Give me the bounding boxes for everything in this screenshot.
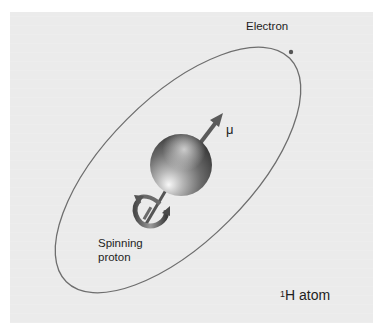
- spinning-proton-line1: Spinning: [98, 236, 158, 250]
- hydrogen-atom-diagram: [0, 0, 383, 333]
- spinning-proton-label: Spinning proton: [98, 236, 158, 264]
- magnetic-moment-arrow: [198, 113, 223, 146]
- atom-mass-number: 1: [280, 289, 285, 299]
- electron-dot: [289, 50, 293, 54]
- atom-caption: 1H atom: [280, 289, 330, 302]
- spin-rotation-icon: [134, 195, 170, 226]
- electron-label: Electron: [246, 20, 288, 33]
- atom-symbol: H atom: [285, 287, 330, 303]
- proton-sphere: [150, 134, 212, 196]
- spinning-proton-line2: proton: [98, 250, 158, 264]
- magnetic-moment-label: μ: [226, 123, 234, 136]
